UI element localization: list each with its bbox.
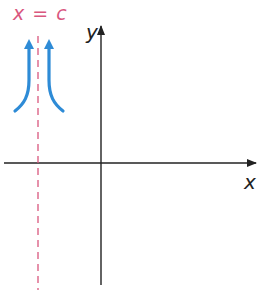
asymptote-label: x = c [13,2,68,24]
y-axis-label: y [86,20,98,44]
left-branch-curve [15,44,29,111]
asymptote-diagram: x = c y x [0,0,268,300]
graph-svg [0,0,268,300]
right-branch-curve [49,44,63,111]
x-axis-label: x [244,170,256,194]
